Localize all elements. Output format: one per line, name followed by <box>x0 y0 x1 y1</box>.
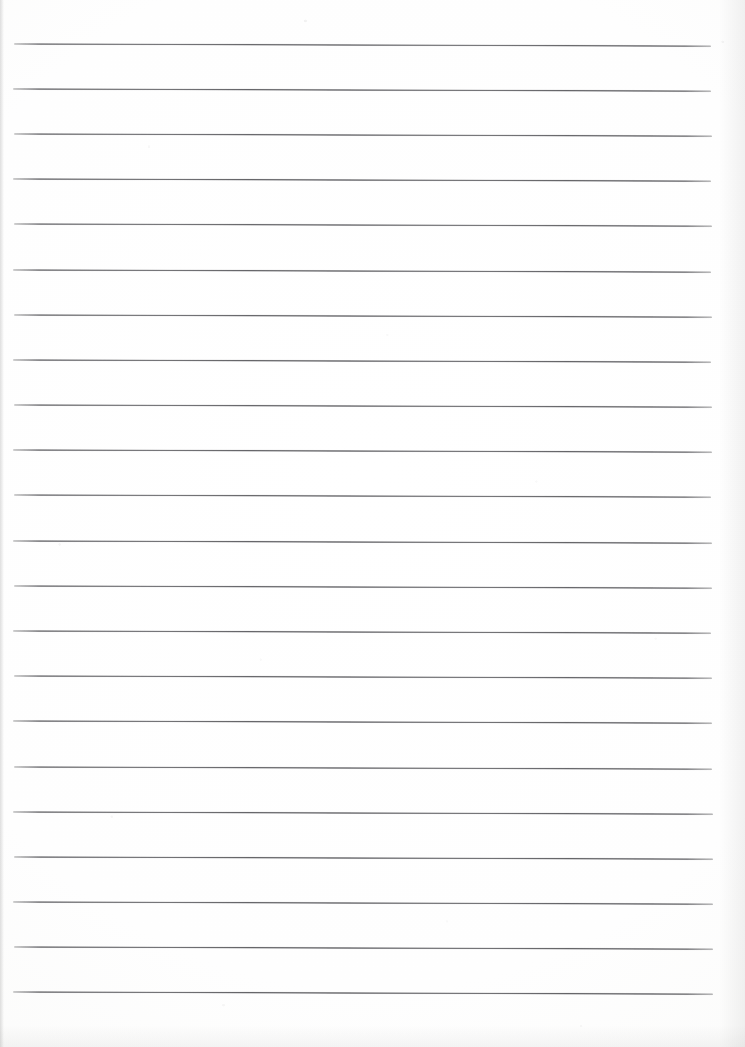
rule-line <box>13 901 713 905</box>
rule-line <box>13 720 712 724</box>
rule-line <box>13 88 711 92</box>
rule-line <box>14 43 711 47</box>
rule-line <box>13 449 712 453</box>
rule-line <box>14 585 712 589</box>
rule-line <box>14 314 712 318</box>
rule-line <box>14 675 712 679</box>
rule-line <box>14 223 712 227</box>
rule-line <box>13 540 712 544</box>
rule-line <box>14 946 713 950</box>
rule-line <box>14 133 712 137</box>
rule-line <box>14 856 713 860</box>
rule-line <box>14 404 712 408</box>
rule-line <box>13 178 711 182</box>
rule-line <box>13 630 711 634</box>
scanned-page <box>0 0 745 1047</box>
rule-line <box>13 811 713 815</box>
rule-line <box>13 269 711 273</box>
rule-line <box>13 991 713 995</box>
rule-line <box>14 766 712 770</box>
ruled-lines-group <box>0 0 745 1047</box>
rule-line <box>13 359 711 363</box>
rule-line <box>14 494 711 498</box>
